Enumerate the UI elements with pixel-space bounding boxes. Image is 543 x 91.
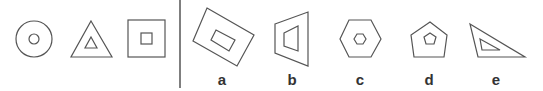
square-figure — [128, 20, 165, 57]
figure-analogy-puzzle: a b c d e — [0, 0, 543, 91]
circle-figure — [16, 21, 52, 57]
option-c-figure[interactable] — [340, 20, 381, 57]
option-b-figure[interactable] — [275, 12, 308, 66]
option-c-label[interactable]: c — [356, 72, 364, 87]
option-a-figure[interactable] — [193, 8, 254, 66]
triangle-figure — [71, 21, 112, 57]
option-d-figure[interactable] — [411, 22, 447, 57]
option-d-label[interactable]: d — [424, 72, 433, 87]
option-e-label[interactable]: e — [492, 72, 500, 87]
puzzle-figures — [0, 0, 543, 91]
option-e-figure[interactable] — [470, 24, 525, 57]
option-b-label[interactable]: b — [287, 72, 296, 87]
option-a-label[interactable]: a — [218, 72, 226, 87]
